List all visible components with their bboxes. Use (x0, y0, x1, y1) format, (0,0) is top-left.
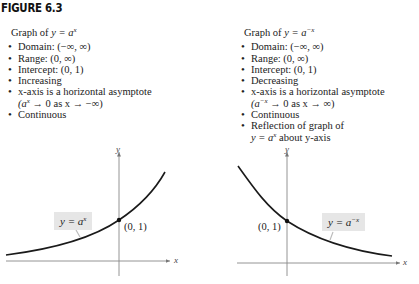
right-x-axis-label: x (403, 257, 407, 267)
curve-label-exp: −x (351, 216, 359, 224)
left-curve-label: y = ax (54, 212, 92, 230)
curve-label-eq: y = a (60, 215, 83, 227)
left-intercept-point (117, 218, 121, 222)
left-y-axis-label: y (116, 144, 120, 154)
right-curve-label: y = a−x (322, 213, 365, 231)
left-x-axis-label: x (174, 255, 178, 265)
right-point-label: (0, 1) (258, 221, 281, 232)
left-callout-pointer (76, 230, 80, 237)
graphs-canvas (0, 0, 419, 284)
right-y-axis-label: y (285, 144, 289, 154)
right-intercept-point (285, 219, 289, 223)
left-point-label: (0, 1) (124, 221, 147, 232)
right-graph (237, 152, 400, 276)
curve-label-eq: y = a (328, 216, 351, 228)
right-callout-pointer (330, 232, 333, 240)
right-exponential-curve (238, 166, 392, 256)
curve-label-exp: x (83, 215, 86, 223)
